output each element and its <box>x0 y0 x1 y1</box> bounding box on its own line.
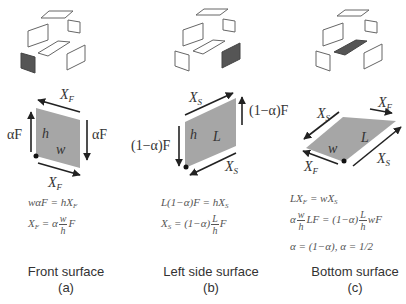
cube-left-face <box>323 23 343 46</box>
cube-right-face-highlighted <box>222 43 240 68</box>
label-L: L <box>213 130 221 144</box>
cube-back-face <box>223 19 235 32</box>
cube-bottom-face-highlighted <box>334 40 367 55</box>
exploded-cube-icon-b <box>175 9 240 71</box>
cube-left-face <box>28 24 48 47</box>
label-one-minus-alpha-f-left: (1−α)F <box>131 139 170 153</box>
cube-top-face <box>337 10 369 16</box>
equation-c-1: LXF = wXS <box>290 193 338 206</box>
front-surface-diagram <box>31 100 87 175</box>
label-xf-top-right: XF <box>378 96 392 112</box>
equation-c-2: αwhLF = (1−α)LhwF <box>290 209 382 232</box>
label-xs-top: XS <box>189 91 202 107</box>
caption-b-title: Left side surface <box>141 264 281 280</box>
label-w: w <box>328 142 337 156</box>
label-h: h <box>42 127 49 141</box>
cube-front-face <box>316 51 330 71</box>
label-w: w <box>56 143 65 157</box>
label-xf-bottom: XF <box>48 176 62 192</box>
equation-a-1: wαF = hXF <box>28 197 77 210</box>
exploded-cube-icon-a <box>21 11 85 73</box>
label-alpha-f-right: αF <box>92 128 107 142</box>
corner-pivot-dot <box>184 165 189 170</box>
cube-back-face <box>68 20 80 33</box>
cube-top-face <box>41 11 73 18</box>
cube-back-face <box>365 20 377 33</box>
caption-c: Bottom surface(c) <box>285 264 406 296</box>
label-xs-bottom: XS <box>225 160 238 176</box>
caption-c-label: (c) <box>285 280 406 296</box>
equation-a-2: XF = αwhF <box>28 213 75 236</box>
equation-b-1: L(1−α)F = hXS <box>161 197 229 210</box>
label-xf-bottom-left: XF <box>304 160 318 176</box>
cube-bottom-face <box>193 40 225 54</box>
label-xf-top: XF <box>60 88 74 104</box>
cube-front-face-highlighted <box>21 53 35 73</box>
caption-c-title: Bottom surface <box>285 264 406 280</box>
caption-a-title: Front surface <box>0 264 136 280</box>
caption-b-label: (b) <box>141 280 281 296</box>
label-h: h <box>190 128 197 142</box>
cube-bottom-face <box>38 41 70 56</box>
caption-a-label: (a) <box>0 280 136 296</box>
label-L: L <box>361 131 369 145</box>
caption-b: Left side surface(b) <box>141 264 281 296</box>
label-one-minus-alpha-f-right: (1−α)F <box>249 104 288 118</box>
corner-pivot-dot <box>34 154 39 159</box>
exploded-cube-icon-c <box>316 10 382 71</box>
caption-a: Front surface(a) <box>0 264 136 296</box>
cube-right-face <box>364 44 382 69</box>
cube-left-face <box>183 23 203 46</box>
cube-top-face <box>196 9 228 15</box>
label-xs-top-left: XS <box>317 107 330 123</box>
cube-front-face <box>175 51 189 71</box>
label-xs-bottom-right: XS <box>377 152 390 168</box>
equation-b-2: XS = (1−α)LhF <box>161 213 226 236</box>
equation-c-3: α = (1−α), α = 1/2 <box>290 241 373 252</box>
label-alpha-f-left: αF <box>7 128 22 142</box>
corner-pivot-dot <box>342 159 347 164</box>
cube-right-face <box>67 45 85 70</box>
